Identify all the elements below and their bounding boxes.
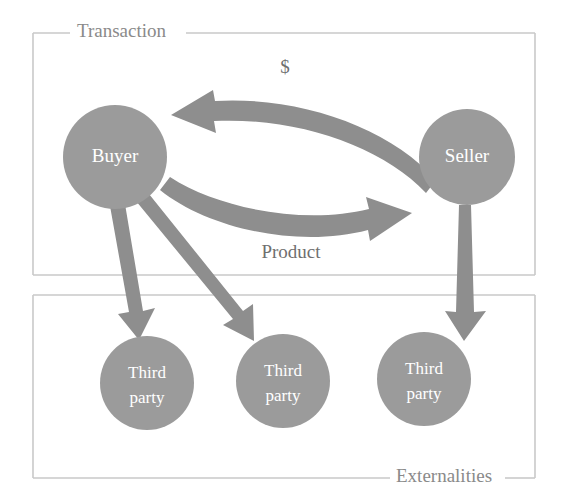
- node-seller[interactable]: Seller: [419, 109, 515, 205]
- third-party-3-label-line1: Third: [405, 359, 443, 378]
- money-flow-arrow: [171, 90, 436, 193]
- third-party-2-label-line1: Third: [264, 361, 302, 380]
- spillover-1-arrow: [110, 204, 155, 340]
- edge-label-product: Product: [261, 241, 321, 262]
- third-party-2-circle[interactable]: [236, 334, 330, 428]
- third-party-2-label-line2: party: [266, 386, 301, 405]
- externalities-diagram: Transaction Externalities $ Product: [0, 0, 567, 503]
- third-party-3-label-line2: party: [407, 384, 442, 403]
- third-party-1-label-line1: Third: [128, 363, 166, 382]
- seller-label: Seller: [445, 145, 490, 166]
- buyer-label: Buyer: [92, 145, 139, 166]
- spillover-3-arrow: [445, 205, 486, 341]
- group-label-transaction: Transaction: [77, 20, 167, 41]
- edge-label-money: $: [280, 56, 290, 77]
- group-label-externalities: Externalities: [396, 465, 492, 486]
- product-flow-arrow: [160, 177, 412, 241]
- diagram-canvas: Transaction Externalities $ Product: [0, 0, 567, 503]
- edge-spillover-1: [110, 204, 155, 340]
- edge-product-flow: [160, 177, 412, 241]
- third-party-1-label-line2: party: [130, 388, 165, 407]
- node-third-party-2[interactable]: Third party: [236, 334, 330, 428]
- edge-spillover-3: [445, 205, 486, 341]
- node-third-party-3[interactable]: Third party: [377, 332, 471, 426]
- node-third-party-1[interactable]: Third party: [100, 336, 194, 430]
- third-party-1-circle[interactable]: [100, 336, 194, 430]
- edge-money-flow: [171, 90, 436, 193]
- node-buyer[interactable]: Buyer: [63, 105, 167, 209]
- third-party-3-circle[interactable]: [377, 332, 471, 426]
